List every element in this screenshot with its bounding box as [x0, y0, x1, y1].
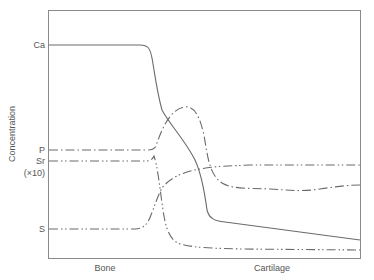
sr-scale-label: (×10): [24, 168, 45, 178]
s-label: S: [39, 224, 45, 234]
p-label: P: [39, 145, 45, 155]
p-curve: [49, 107, 360, 191]
ca-label: Ca: [33, 40, 45, 50]
sr-label: Sr: [36, 156, 45, 166]
concentration-chart: Concentration Ca P Sr (×10) S Bone Carti…: [0, 0, 374, 280]
x-label-bone: Bone: [94, 263, 115, 273]
y-axis-title: Concentration: [7, 106, 17, 162]
plot-frame: [49, 11, 361, 259]
ca-curve: [49, 45, 360, 240]
sr-curve: [49, 156, 360, 250]
x-label-cartilage: Cartilage: [254, 263, 290, 273]
